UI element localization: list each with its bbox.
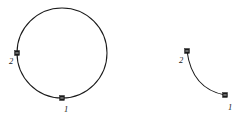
arc-point-2-label: 2 — [179, 55, 184, 65]
arc-curve — [187, 51, 225, 95]
arc-point-1-label: 1 — [228, 102, 232, 112]
circle-point-1-label: 1 — [64, 104, 68, 114]
circle-point-1[interactable]: 1 — [60, 96, 69, 115]
arc-point-1[interactable]: 1 — [223, 93, 233, 113]
circle-point-2-label: 2 — [9, 56, 14, 66]
circle-curve — [17, 8, 107, 98]
figure-canvas: 2121 — [0, 0, 245, 121]
figure-container: 2121 — [0, 0, 245, 121]
